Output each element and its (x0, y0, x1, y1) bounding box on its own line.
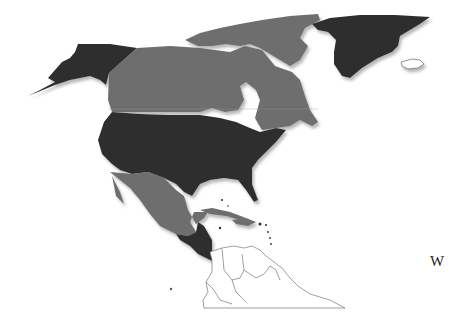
region-hispaniola[interactable] (232, 218, 256, 226)
north-america-map (0, 0, 457, 326)
region-south-america[interactable] (203, 246, 345, 308)
region-united-states[interactable] (98, 112, 286, 202)
galapagos-islands (170, 288, 172, 290)
map-canvas: W (0, 0, 457, 326)
west-label: W (430, 253, 444, 270)
region-cuba[interactable] (200, 208, 246, 220)
region-iceland[interactable] (401, 59, 424, 69)
